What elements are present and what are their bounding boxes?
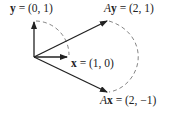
label-y: y = (0, 1) (10, 3, 53, 15)
label-x: x = (1, 0) (71, 58, 114, 70)
label-Ay: Ay = (2, 1) (104, 3, 154, 15)
dashed-arc-small (36, 21, 69, 55)
label-Ax: Ax = (2, −1) (100, 95, 156, 107)
vector-Ay-arrow (34, 21, 107, 57)
